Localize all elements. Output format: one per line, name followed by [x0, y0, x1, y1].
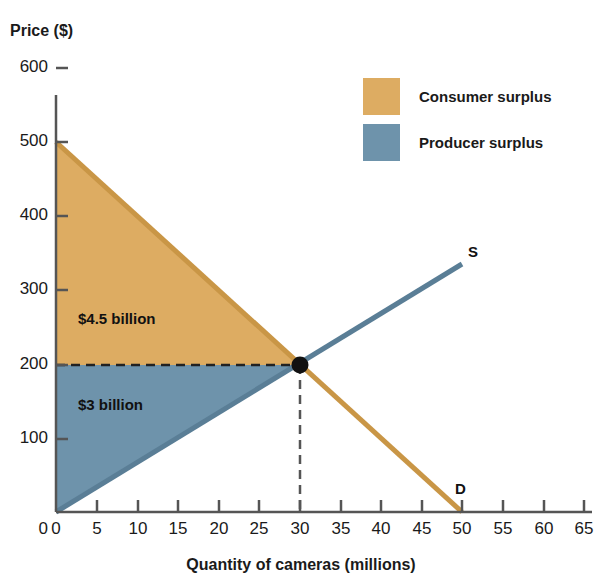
x-axis-ticks [97, 500, 584, 512]
supply-curve-label: S [468, 243, 478, 260]
equilibrium-point [292, 357, 309, 374]
consumer-surplus-value-label: $4.5 billion [78, 310, 156, 327]
y-axis-title: Price ($) [10, 22, 73, 40]
x-tick-label-25: 25 [239, 519, 279, 539]
y-tick-label-200: 200 [0, 354, 48, 374]
legend-label-consumer-surplus: Consumer surplus [419, 88, 552, 105]
legend-swatch-producer-surplus [363, 124, 400, 161]
y-tick-label-500: 500 [0, 131, 48, 151]
legend-swatch-consumer-surplus [363, 78, 400, 115]
x-tick-label-45: 45 [402, 519, 442, 539]
x-tick-label-60: 60 [524, 519, 564, 539]
x-tick-label-5: 5 [77, 519, 117, 539]
x-tick-label-35: 35 [321, 519, 361, 539]
legend-label-producer-surplus: Producer surplus [419, 134, 543, 151]
demand-curve-label: D [455, 480, 466, 497]
y-tick-label-400: 400 [0, 205, 48, 225]
y-tick-label-600: 600 [0, 57, 48, 77]
x-tick-label-65: 65 [564, 519, 602, 539]
x-tick-label-40: 40 [361, 519, 401, 539]
y-tick-label-300: 300 [0, 279, 48, 299]
x-tick-label-20: 20 [199, 519, 239, 539]
surplus-chart: Price ($) Quantity of cameras (millions)… [0, 0, 602, 583]
x-tick-label-0: 0 [36, 519, 76, 539]
x-tick-label-10: 10 [118, 519, 158, 539]
x-axis-title: Quantity of cameras (millions) [0, 556, 602, 574]
producer-surplus-value-label: $3 billion [78, 396, 143, 413]
y-tick-label-100: 100 [0, 428, 48, 448]
x-tick-label-55: 55 [483, 519, 523, 539]
x-tick-label-15: 15 [158, 519, 198, 539]
x-tick-label-30: 30 [280, 519, 320, 539]
x-tick-label-50: 50 [442, 519, 482, 539]
